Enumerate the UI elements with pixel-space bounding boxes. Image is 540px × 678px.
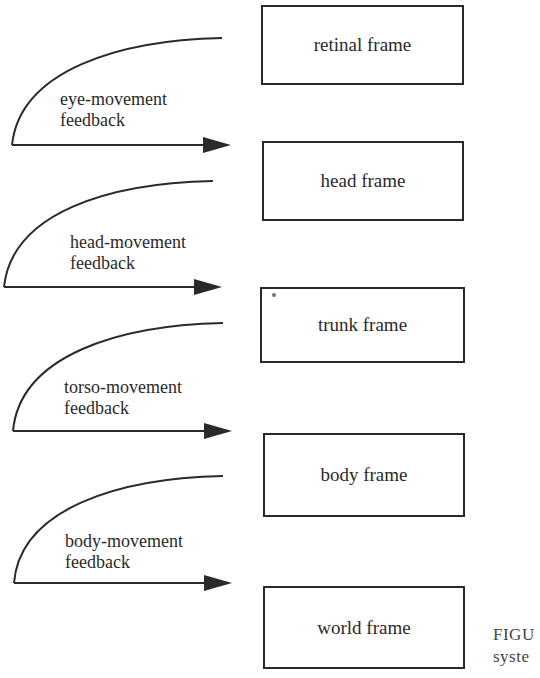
arrowhead-icon (203, 137, 231, 153)
eye-movement-feedback-label: eye-movement feedback (60, 89, 167, 131)
arrowhead-icon (204, 423, 232, 439)
body-movement-feedback-label: body-movement feedback (65, 531, 183, 573)
caption-line-1: FIGU (493, 624, 535, 646)
trunk-frame-label: trunk frame (318, 314, 407, 336)
caption-line-2: syste (493, 646, 535, 668)
torso-movement-feedback-label: torso-movement feedback (64, 377, 182, 419)
head-frame-label: head frame (321, 170, 406, 192)
print-speck (272, 293, 276, 297)
body-frame-label: body frame (320, 464, 407, 486)
head-frame-box: head frame (262, 141, 464, 221)
reference-frame-diagram: retinal frame head frame trunk frame bod… (0, 0, 540, 678)
figure-caption: FIGU syste (493, 624, 535, 668)
world-frame-box: world frame (263, 586, 465, 669)
arrowhead-icon (194, 279, 222, 295)
world-frame-label: world frame (317, 617, 410, 639)
retinal-frame-box: retinal frame (261, 5, 464, 85)
trunk-frame-box: trunk frame (260, 287, 465, 363)
retinal-frame-label: retinal frame (314, 34, 412, 56)
head-movement-feedback-label: head-movement feedback (70, 232, 186, 274)
body-frame-box: body frame (263, 433, 465, 517)
arrowhead-icon (204, 575, 232, 591)
